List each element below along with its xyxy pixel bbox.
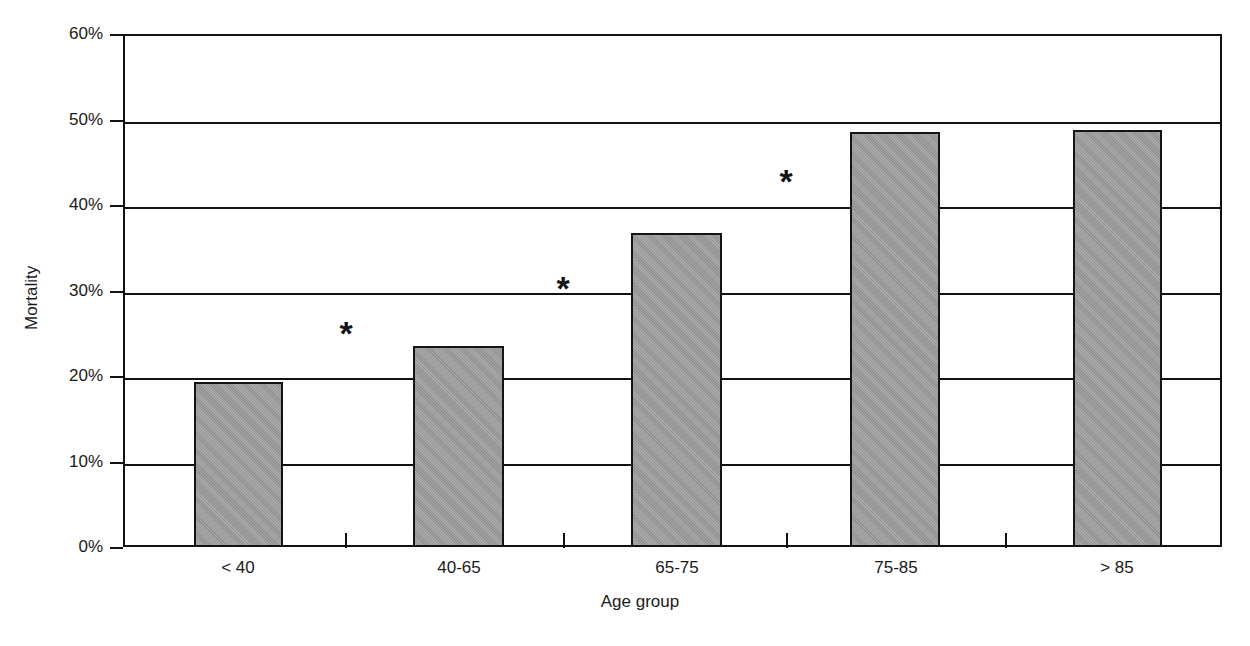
xtick-mark-3 xyxy=(786,533,788,548)
xtick-label-40-65: 40-65 xyxy=(437,558,480,578)
ytick-mark-10 xyxy=(110,462,123,464)
bars-layer xyxy=(123,34,1222,547)
xtick-mark-1 xyxy=(345,533,347,548)
ytick-label-0: 0% xyxy=(38,537,103,557)
bar-lt-40 xyxy=(194,382,283,547)
ytick-label-50: 50% xyxy=(38,110,103,130)
significance-asterisk-2: * xyxy=(556,271,569,305)
xtick-label-65-75: 65-75 xyxy=(655,558,698,578)
bar-gt-85 xyxy=(1073,130,1162,547)
x-axis-title: Age group xyxy=(601,592,679,612)
ytick-mark-20 xyxy=(110,376,123,378)
ytick-label-60: 60% xyxy=(38,24,103,44)
ytick-label-10: 10% xyxy=(38,452,103,472)
xtick-mark-4 xyxy=(1005,533,1007,548)
y-axis-title: Mortality xyxy=(22,266,42,330)
ytick-mark-50 xyxy=(110,120,123,122)
xtick-label-75-85: 75-85 xyxy=(874,558,917,578)
significance-asterisk-1: * xyxy=(339,316,352,350)
mortality-by-age-group-bar-chart: * * * 60% 50% 40% 30% 20% 10% 0% Mortali… xyxy=(0,0,1250,646)
ytick-mark-30 xyxy=(110,291,123,293)
ytick-label-40: 40% xyxy=(38,195,103,215)
xtick-label-lt-40: < 40 xyxy=(221,558,255,578)
bar-75-85 xyxy=(850,132,940,548)
ytick-mark-0 xyxy=(110,547,123,549)
ytick-label-30: 30% xyxy=(38,281,103,301)
bar-65-75 xyxy=(631,233,722,547)
xtick-label-gt-85: > 85 xyxy=(1100,558,1134,578)
significance-asterisk-3: * xyxy=(779,164,792,198)
xtick-mark-2 xyxy=(563,533,565,548)
ytick-label-20: 20% xyxy=(38,366,103,386)
ytick-mark-40 xyxy=(110,205,123,207)
ytick-mark-60 xyxy=(110,34,123,36)
bar-40-65 xyxy=(413,346,504,547)
